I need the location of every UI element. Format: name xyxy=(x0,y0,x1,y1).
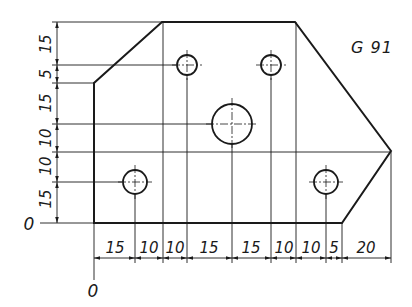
hdim-label-4: 15 xyxy=(241,239,260,257)
technical-drawing: 15 10 10 15 5 15 15 10 10 15 15 10 10 5 … xyxy=(0,0,412,307)
vdim-label-4: 5 xyxy=(37,69,55,79)
hdim-label-1: 10 xyxy=(139,239,158,257)
hole-50-35-large xyxy=(206,98,258,150)
vdim-label-2: 10 xyxy=(37,128,55,147)
drawing-title: G 91 xyxy=(351,38,393,57)
hdim-label-3: 15 xyxy=(199,239,218,257)
hdim-label-5: 10 xyxy=(274,239,293,257)
vdim-label-5: 15 xyxy=(37,34,55,53)
vdim-label-1: 10 xyxy=(37,156,55,175)
holes xyxy=(118,50,343,199)
vdim-label-0: 15 xyxy=(37,189,55,208)
hole-35-55 xyxy=(172,50,202,80)
hole-15-15 xyxy=(118,165,152,199)
hdim-label-0: 15 xyxy=(105,239,124,257)
vdim-label-3: 15 xyxy=(37,93,55,112)
hole-85-15 xyxy=(309,165,343,199)
y-origin-label: 0 xyxy=(24,214,35,234)
hdim-label-2: 10 xyxy=(165,239,184,257)
hdim-label-6: 10 xyxy=(301,239,320,257)
horizontal-dimension-labels: 15 10 10 15 15 10 10 5 20 xyxy=(105,239,375,257)
hdim-label-7: 5 xyxy=(329,239,339,257)
hdim-label-8: 20 xyxy=(356,239,375,257)
hole-65-55 xyxy=(256,50,286,80)
x-origin-label: 0 xyxy=(88,281,99,301)
